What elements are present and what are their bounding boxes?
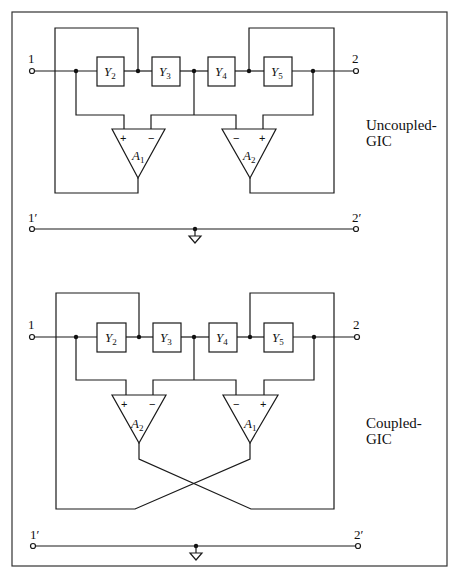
opamp-a1-minus: − bbox=[233, 398, 239, 410]
terminal-2-label: 2 bbox=[352, 51, 359, 66]
opamp-a2-minus: − bbox=[149, 398, 155, 410]
terminal-1-prime bbox=[30, 227, 35, 232]
caption-coupled-line1: Coupled- bbox=[366, 415, 422, 431]
caption-uncoupled-line2: GIC bbox=[366, 133, 392, 149]
caption-uncoupled-line1: Uncoupled- bbox=[366, 117, 437, 133]
opamp-a1-plus: + bbox=[260, 398, 266, 410]
terminal-1-label: 1 bbox=[28, 317, 35, 332]
opamp-a1-plus: + bbox=[120, 132, 126, 144]
opamp-a2-minus: − bbox=[233, 132, 239, 144]
opamp-a2-plus: + bbox=[121, 398, 127, 410]
terminal-2-prime bbox=[354, 227, 359, 232]
terminal-1-prime bbox=[31, 544, 36, 549]
caption-coupled-line2: GIC bbox=[366, 431, 392, 447]
terminal-1-label: 1 bbox=[28, 51, 35, 66]
opamp-a2-plus: + bbox=[259, 132, 265, 144]
opamp-a1-minus: − bbox=[148, 132, 154, 144]
terminal-1-prime-label: 1′ bbox=[28, 210, 38, 225]
terminal-1 bbox=[30, 69, 35, 74]
terminal-1 bbox=[30, 335, 35, 340]
figure-border bbox=[12, 12, 447, 566]
terminal-2-prime-label: 2′ bbox=[354, 527, 364, 542]
terminal-2 bbox=[355, 335, 360, 340]
terminal-2-prime-label: 2′ bbox=[352, 210, 362, 225]
terminal-2-prime bbox=[356, 544, 361, 549]
coupled-gic-circuit: Y2 Y3 Y4 Y5 + − A2 − + A1 1 2 1′ 2′ Co bbox=[28, 293, 422, 560]
terminal-2-label: 2 bbox=[353, 317, 360, 332]
uncoupled-gic-circuit: Y2 Y3 Y4 Y5 + − A1 − + A2 1 2 1′ 2′ Un bbox=[28, 28, 437, 243]
terminal-2 bbox=[354, 69, 359, 74]
ground-icon bbox=[189, 236, 201, 243]
gic-circuit-diagram: Y2 Y3 Y4 Y5 + − A1 − + A2 1 2 1′ 2′ Un bbox=[0, 0, 458, 579]
terminal-1-prime-label: 1′ bbox=[30, 527, 40, 542]
ground-icon bbox=[190, 553, 202, 560]
